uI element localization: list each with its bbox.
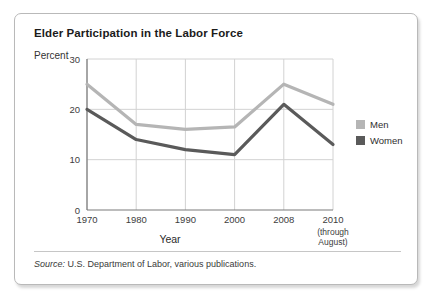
- source-prefix: Source:: [34, 259, 65, 269]
- source-divider: [34, 251, 401, 252]
- legend-label-men: Men: [370, 119, 388, 130]
- legend-item-men: Men: [356, 118, 416, 130]
- legend-swatch-women: [356, 136, 365, 145]
- x-tick-label: 2010: [322, 214, 343, 225]
- legend-swatch-men: [356, 120, 365, 129]
- x-tick-label: 2008: [273, 214, 294, 225]
- series-line-men: [87, 84, 333, 129]
- x-axis-title: Year: [15, 233, 325, 245]
- x-tick-label: 2000: [224, 214, 245, 225]
- y-tick-label: 30: [69, 54, 80, 65]
- plot-area: 0102030197019801990200020082010(throughA…: [15, 14, 419, 286]
- x-tick-label: 1970: [76, 214, 97, 225]
- figure-card: Elder Participation in the Labor Force P…: [14, 13, 418, 285]
- x-tick-label: 1990: [175, 214, 196, 225]
- source-note: Source: U.S. Department of Labor, variou…: [34, 259, 256, 269]
- x-tick-label: 1980: [126, 214, 147, 225]
- chart-legend: Men Women: [356, 118, 416, 150]
- chart-svg: 0102030197019801990200020082010(throughA…: [15, 14, 419, 286]
- legend-item-women: Women: [356, 134, 416, 146]
- source-body: U.S. Department of Labor, various public…: [65, 259, 256, 269]
- y-tick-label: 10: [69, 154, 80, 165]
- y-tick-label: 20: [69, 104, 80, 115]
- legend-label-women: Women: [370, 135, 403, 146]
